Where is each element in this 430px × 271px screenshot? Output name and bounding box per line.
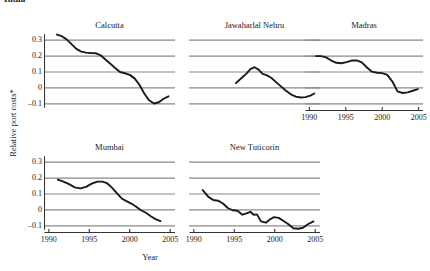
x-tick-label: 1995 <box>338 114 354 122</box>
y-axis-title: Relative port costs* <box>8 63 18 183</box>
y-tick-label: 0.1 <box>32 190 42 198</box>
y-tick-label: –0.1 <box>28 100 42 108</box>
panel-title: Mumbai <box>44 142 175 152</box>
data-series-line <box>58 180 161 221</box>
figure-root: India Relative port costs* Year Calcutta… <box>0 0 430 271</box>
panel-title: New Tuticorin <box>189 142 320 152</box>
panel-jawaharlal-nehru: Jawaharlal Nehru <box>189 33 320 111</box>
plot-area <box>44 155 175 233</box>
plot-area <box>44 33 175 111</box>
x-tick-label: 2005 <box>162 236 178 244</box>
panel-title: Madras <box>305 20 423 30</box>
x-tick-label: 2005 <box>307 236 323 244</box>
x-tick-label: 2000 <box>374 114 390 122</box>
x-tick-label: 1995 <box>81 236 97 244</box>
x-tick-label: 1990 <box>301 114 317 122</box>
y-tick-label: 0.3 <box>32 158 42 166</box>
x-tick-label: 1995 <box>226 236 242 244</box>
x-tick-label: 2000 <box>122 236 138 244</box>
data-series-line <box>57 35 169 104</box>
y-tick-label: 0 <box>38 206 42 214</box>
panel-title: Jawaharlal Nehru <box>189 20 320 30</box>
y-tick-label: –0.1 <box>28 222 42 230</box>
panel-calcutta: Calcutta 0.30.20.10–0.1 <box>44 33 175 111</box>
y-tick-label: 0.3 <box>32 36 42 44</box>
panel-mumbai: Mumbai 0.30.20.10–0.11990199520002005 <box>44 155 175 233</box>
panel-madras: Madras 1990199520002005 <box>305 33 423 111</box>
x-tick-label: 1990 <box>41 236 57 244</box>
x-tick-label: 1990 <box>186 236 202 244</box>
data-series-line <box>203 190 314 229</box>
x-axis-title: Year <box>0 252 300 262</box>
plot-area <box>189 155 320 233</box>
x-tick-label: 2000 <box>267 236 283 244</box>
y-tick-label: 0 <box>38 84 42 92</box>
plot-area <box>189 33 320 111</box>
y-tick-label: 0.2 <box>32 174 42 182</box>
panel-title: Calcutta <box>44 20 175 30</box>
clipped-header-title: India <box>4 0 26 4</box>
y-tick-label: 0.2 <box>32 52 42 60</box>
panel-new-tuticorin: New Tuticorin 1990199520002005 <box>189 155 320 233</box>
x-tick-label: 2005 <box>411 114 427 122</box>
y-tick-label: 0.1 <box>32 68 42 76</box>
plot-area <box>305 33 423 111</box>
